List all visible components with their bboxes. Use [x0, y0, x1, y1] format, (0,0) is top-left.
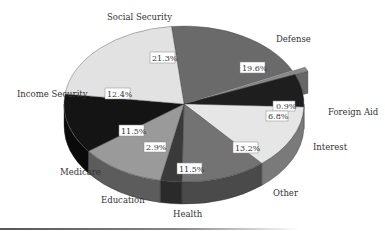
svg-text:2.9%: 2.9%	[146, 143, 167, 152]
pct-income-security: 12.4%	[105, 88, 133, 99]
pct-other: 13.2%	[233, 142, 261, 153]
pct-health: 11.5%	[177, 163, 205, 174]
svg-text:12.4%: 12.4%	[107, 90, 133, 99]
svg-text:13.2%: 13.2%	[235, 144, 261, 153]
label-social-security: Social Security	[107, 12, 172, 22]
pct-medicare: 11.5%	[119, 125, 147, 136]
pct-interest: 6.8%	[266, 111, 289, 121]
label-health: Health	[173, 209, 203, 219]
slice-side-education	[160, 180, 182, 204]
pie-chart: Social Security Defense Income Security …	[0, 0, 385, 231]
label-other: Other	[273, 188, 299, 198]
svg-text:0.9%: 0.9%	[276, 102, 297, 111]
pct-foreign-aid: 0.9%	[273, 101, 297, 111]
svg-text:11.5%: 11.5%	[121, 127, 147, 136]
svg-text:21.3%: 21.3%	[152, 54, 178, 63]
label-education: Education	[101, 195, 145, 205]
label-foreign-aid: Foreign Aid	[328, 107, 379, 117]
pct-education: 2.9%	[144, 142, 167, 152]
label-income-security: Income Security	[17, 89, 88, 99]
label-medicare: Medicare	[60, 167, 101, 177]
svg-text:11.5%: 11.5%	[179, 165, 205, 174]
svg-text:19.6%: 19.6%	[242, 64, 268, 73]
pct-social-security: 21.3%	[150, 52, 178, 63]
svg-text:6.8%: 6.8%	[268, 112, 289, 121]
label-interest: Interest	[313, 142, 348, 152]
pct-defense: 19.6%	[240, 62, 268, 73]
bottom-rule	[0, 228, 300, 230]
label-defense: Defense	[276, 34, 311, 44]
